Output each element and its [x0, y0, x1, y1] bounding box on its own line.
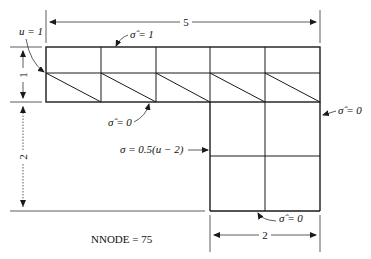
element-diagonal-1	[46, 73, 101, 102]
bc-leader-upper-bottom	[134, 104, 149, 122]
bc-label-mixed: σ = 0.5(u − 2)	[120, 143, 184, 156]
dimension-label-2-bottom: 2	[262, 229, 268, 241]
bc-top-natural: σ̂ = 1	[116, 28, 154, 46]
element-diagonal-3	[156, 73, 210, 102]
bc-leader-right	[323, 111, 336, 115]
upper-region-outline	[46, 47, 320, 102]
upper-region	[46, 47, 320, 102]
bc-label-top: σ̂ = 1	[130, 28, 154, 40]
dim2-arrowhead-up	[20, 106, 26, 113]
bc-upper-bottom: σ̂ = 0	[108, 104, 149, 128]
bc-leader-bottom	[258, 213, 276, 221]
dimension-label-2-left: 2	[17, 154, 29, 160]
bc-leader-top	[116, 35, 128, 46]
element-diagonal-4	[210, 73, 265, 102]
dimension-label-5: 5	[183, 16, 189, 28]
dimension-bottom-width: 2	[210, 215, 320, 252]
bc-inner-mixed: σ = 0.5(u − 2)	[120, 143, 208, 156]
dimension-label-1: 1	[17, 72, 29, 78]
bc-label-upper-bottom: σ̂ = 0	[108, 116, 132, 128]
bc-label-right: σ̂ = 0	[338, 104, 362, 116]
element-diagonal-2	[101, 73, 156, 102]
mesh-diagram: 5 1 2 2 u = 1 σ̂ = 1 σ̂ = 0 σ̂ = 0	[0, 0, 371, 259]
dimension-left-heights: 1 2	[10, 47, 205, 211]
lower-region	[210, 102, 320, 211]
dimension-top-width: 5	[46, 10, 320, 43]
element-diagonal-5	[265, 73, 320, 102]
bc-leader-left	[26, 39, 44, 72]
bc-label-bottom: σ̂ = 0	[279, 212, 303, 224]
bc-right: σ̂ = 0	[323, 104, 362, 116]
dim2-arrowhead-down	[20, 200, 26, 207]
bc-label-u-equals-1: u = 1	[19, 25, 43, 37]
nnode-annotation: NNODE = 75	[91, 233, 153, 245]
bc-bottom: σ̂ = 0	[258, 212, 303, 224]
